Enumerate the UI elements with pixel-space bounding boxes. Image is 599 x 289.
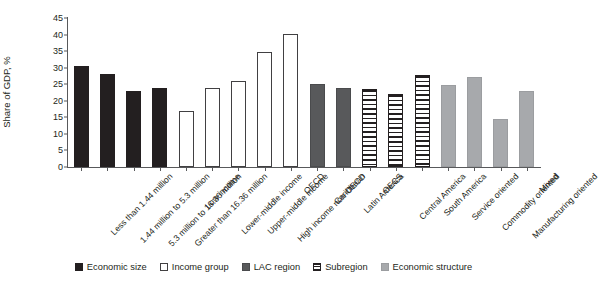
x-axis-tick-mark (474, 167, 475, 171)
x-axis-tick-mark (212, 167, 213, 171)
bar (441, 85, 456, 167)
bar (283, 34, 298, 167)
x-axis-tick-mark (134, 167, 135, 171)
legend-item-subregion[interactable]: Subregion (313, 262, 367, 272)
bar (100, 74, 115, 167)
x-axis-tick-mark (527, 167, 528, 171)
bar (74, 66, 89, 167)
x-axis-tick-mark (238, 167, 239, 171)
bar (519, 91, 534, 167)
x-axis-tick-mark (291, 167, 292, 171)
legend-swatch-income-group (160, 263, 168, 271)
y-axis-tick-mark (64, 67, 68, 68)
legend-label: Economic size (87, 262, 147, 272)
y-axis-tick-mark (64, 150, 68, 151)
legend-swatch-economic-size (75, 263, 83, 271)
bar (415, 75, 430, 167)
y-axis-tick-mark (64, 133, 68, 134)
x-axis-tick-label: Less than 1.44 million (109, 172, 174, 237)
x-axis-tick-mark (501, 167, 502, 171)
bar (231, 81, 246, 167)
x-axis-tick-mark (265, 167, 266, 171)
legend-item-lac-region[interactable]: LAC region (242, 262, 301, 272)
y-axis-tick-mark (64, 84, 68, 85)
legend-swatch-economic-structure (381, 263, 389, 271)
legend-item-economic-size[interactable]: Economic size (75, 262, 147, 272)
y-axis-tick-mark (64, 18, 68, 19)
legend-label: Income group (172, 262, 229, 272)
x-axis-tick-mark (160, 167, 161, 171)
x-axis-tick-mark (343, 167, 344, 171)
bar (336, 88, 351, 167)
legend-label: Subregion (325, 262, 367, 272)
bar (205, 88, 220, 167)
y-axis-tick-mark (64, 51, 68, 52)
x-axis-tick-mark (317, 167, 318, 171)
x-axis-tick-mark (448, 167, 449, 171)
legend-item-economic-structure[interactable]: Economic structure (381, 262, 473, 272)
x-axis-tick-mark (396, 167, 397, 171)
x-axis-tick-label: OECS (381, 172, 404, 195)
plot-area: 051015202530354045 (68, 18, 540, 167)
x-axis-tick-mark (107, 167, 108, 171)
bar (493, 119, 508, 167)
y-axis-tick-mark (64, 167, 68, 168)
y-axis-tick-mark (64, 34, 68, 35)
bar (388, 94, 403, 167)
bar (152, 88, 167, 167)
y-axis-label: Share of GDP, % (1, 56, 12, 128)
bar (362, 89, 377, 167)
bar (467, 77, 482, 167)
x-axis-tick-label: Caribbean (333, 172, 367, 206)
bar (310, 84, 325, 167)
x-axis-tick-label: Mixed (538, 172, 560, 194)
chart-legend: Economic sizeIncome groupLAC regionSubre… (0, 262, 547, 272)
legend-swatch-subregion (313, 263, 321, 271)
legend-label: Economic structure (393, 262, 473, 272)
y-axis-tick-mark (64, 117, 68, 118)
bar (257, 52, 272, 167)
legend-swatch-lac-region (242, 263, 250, 271)
bar (179, 111, 194, 167)
x-axis-line (67, 167, 541, 168)
legend-label: LAC region (254, 262, 301, 272)
x-axis-tick-mark (422, 167, 423, 171)
bar (126, 91, 141, 167)
x-axis-tick-mark (81, 167, 82, 171)
x-axis-tick-mark (186, 167, 187, 171)
y-axis-tick-mark (64, 100, 68, 101)
legend-item-income-group[interactable]: Income group (160, 262, 229, 272)
x-axis-tick-mark (370, 167, 371, 171)
